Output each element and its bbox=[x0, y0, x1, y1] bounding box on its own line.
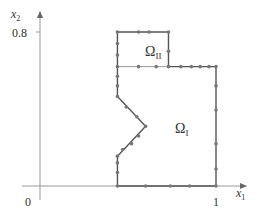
mesh-node bbox=[137, 65, 141, 69]
mesh-node bbox=[168, 184, 172, 188]
mesh-node bbox=[116, 30, 120, 34]
mesh-node bbox=[198, 65, 202, 69]
mesh-node bbox=[116, 154, 120, 158]
mesh-node bbox=[116, 65, 120, 69]
mesh-node bbox=[116, 84, 120, 88]
mesh-node bbox=[214, 84, 218, 88]
mesh-node bbox=[137, 30, 141, 34]
mesh-node bbox=[116, 53, 120, 57]
outer-boundary bbox=[117, 32, 216, 186]
y-tick-label: 0.8 bbox=[12, 26, 27, 40]
mesh-node bbox=[116, 74, 120, 78]
mesh-node bbox=[144, 184, 148, 188]
region-label-omega-ii: ΩII bbox=[145, 44, 161, 61]
mesh-node bbox=[116, 171, 120, 175]
mesh-node bbox=[116, 161, 120, 165]
mesh-node bbox=[130, 142, 134, 146]
mesh-node bbox=[214, 167, 218, 171]
mesh-node bbox=[135, 115, 139, 119]
mesh-node bbox=[188, 184, 192, 188]
mesh-node bbox=[167, 30, 171, 34]
mesh-node bbox=[147, 30, 151, 34]
mesh-node bbox=[179, 65, 183, 69]
mesh-node bbox=[167, 49, 171, 53]
mesh-node bbox=[154, 65, 158, 69]
domain-diagram: x2 0.8 0 1 x1 ΩII ΩI bbox=[0, 0, 258, 216]
mesh-node bbox=[207, 65, 211, 69]
y-axis-label: x2 bbox=[10, 7, 20, 23]
origin-label: 0 bbox=[25, 195, 31, 209]
mesh-node bbox=[214, 108, 218, 112]
mesh-node bbox=[121, 148, 125, 152]
x-tick-label: 1 bbox=[213, 195, 219, 209]
x-axis-label: x1 bbox=[235, 186, 245, 202]
mesh-node bbox=[124, 105, 128, 109]
mesh-node bbox=[214, 142, 218, 146]
mesh-node bbox=[144, 125, 148, 129]
mesh-node bbox=[116, 95, 120, 99]
mesh-node bbox=[190, 65, 194, 69]
mesh-node bbox=[116, 184, 120, 188]
mesh-node bbox=[137, 134, 141, 138]
mesh-node bbox=[116, 42, 120, 46]
region-label-omega-i: ΩI bbox=[175, 121, 188, 138]
mesh-node bbox=[214, 65, 218, 69]
mesh-node bbox=[214, 184, 218, 188]
mesh-node bbox=[167, 65, 171, 69]
